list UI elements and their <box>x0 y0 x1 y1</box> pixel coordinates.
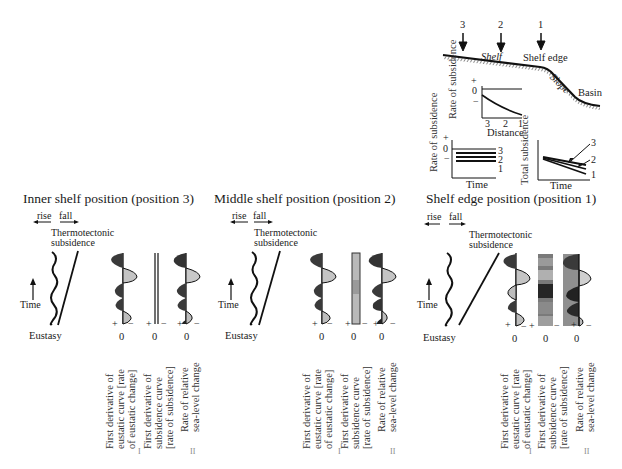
col1-zero: 0 <box>512 334 517 345</box>
col2-zero: 0 <box>543 334 548 345</box>
col1-minus: − <box>521 322 527 332</box>
col2-caption: First derivative ofsubsidence curve[rate… <box>142 366 175 449</box>
col1-plus: + <box>112 319 118 329</box>
col2-caption: First derivative ofsubsidence curve[rate… <box>339 366 372 449</box>
col1-zero: 0 <box>319 332 324 343</box>
col3-plus: + <box>373 319 379 329</box>
col3-zero: 0 <box>184 332 189 343</box>
col2-plus: + <box>146 319 152 329</box>
col2-plus: + <box>345 319 351 329</box>
roman-i: I <box>529 448 532 456</box>
col3-zero: 0 <box>379 332 384 343</box>
col2-caption: First derivative ofsubsidence curve[rate… <box>536 366 569 449</box>
roman-ii: II <box>390 448 395 456</box>
col1-caption: First derivative ofeustatic curve [rateo… <box>499 369 532 449</box>
col3-minus: − <box>586 321 592 331</box>
col2-zero: 0 <box>351 332 356 343</box>
col1-caption: First derivative ofeustatic curve [rateo… <box>301 369 334 449</box>
col3-caption: Rate of relativesea-level change <box>376 362 398 432</box>
col3-caption: Rate of relativesea-level change <box>574 362 596 432</box>
panel-middle-shelf: Middle shelf position (position 2) rise … <box>200 0 410 469</box>
col1-plus: + <box>505 320 511 330</box>
panel-inner-shelf: Inner shelf position (position 3) rise f… <box>0 0 210 469</box>
col1-minus: − <box>327 319 333 329</box>
roman-ii: II <box>190 448 195 456</box>
roman-i: I <box>138 448 141 456</box>
col2-minus: − <box>362 319 368 329</box>
col3-minus: − <box>390 319 396 329</box>
panel-shelf-edge: Shelf edge position (position 1) rise fa… <box>400 0 622 469</box>
roman-ii: II <box>584 448 589 456</box>
col3-zero: 0 <box>574 334 579 345</box>
col3-plus: + <box>571 320 577 330</box>
col2-plus: + <box>529 321 535 331</box>
col2-minus: − <box>554 321 560 331</box>
col1-plus: + <box>312 319 318 329</box>
col1-zero: 0 <box>119 332 124 343</box>
col1-minus: − <box>128 319 134 329</box>
col2-zero: 0 <box>152 332 157 343</box>
col2-minus: − <box>161 319 167 329</box>
col3-minus: − <box>194 319 200 329</box>
col3-plus: + <box>177 319 183 329</box>
col1-caption: First derivative ofeustatic curve [rateo… <box>104 369 137 449</box>
col3-caption: Rate of relativesea-level change <box>179 362 201 432</box>
roman-i: I <box>338 448 341 456</box>
